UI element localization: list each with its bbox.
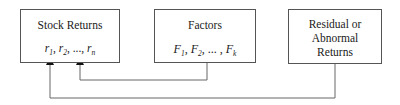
stock-returns-variables: r1, r2, ..., rn bbox=[21, 42, 119, 57]
box-factors: Factors F1, F2, ... , Fk bbox=[154, 9, 256, 63]
box-stock-returns: Stock Returns r1, r2, ..., rn bbox=[20, 9, 120, 63]
residual-title-line-2: Abnormal bbox=[289, 31, 381, 45]
residual-title-line-1: Residual or bbox=[289, 17, 381, 31]
stock-returns-title: Stock Returns bbox=[21, 18, 119, 32]
edge-factors-to-stock-returns bbox=[80, 63, 207, 80]
edge-residual-to-stock-returns bbox=[50, 64, 335, 98]
factors-title: Factors bbox=[155, 18, 255, 32]
box-residual-returns: Residual or Abnormal Returns bbox=[288, 9, 382, 64]
residual-title-line-3: Returns bbox=[289, 45, 381, 59]
factors-variables: F1, F2, ... , Fk bbox=[155, 42, 255, 58]
